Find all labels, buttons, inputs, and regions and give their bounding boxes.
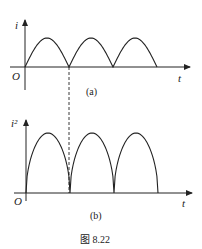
panel-a: i O t (a) xyxy=(10,19,190,98)
panel-b-y-label: i² xyxy=(11,117,18,129)
panel-b: i² O t (b) xyxy=(11,117,192,222)
panel-a-origin-label: O xyxy=(12,70,20,82)
panel-b-caption: (b) xyxy=(90,210,102,222)
panel-a-x-label: t xyxy=(178,72,182,84)
figure-caption: 图 8.22 xyxy=(80,234,110,245)
panel-a-y-label: i xyxy=(15,19,18,31)
panel-b-origin-label: O xyxy=(14,195,22,207)
panel-b-squared-curve xyxy=(26,133,158,193)
panel-b-x-label: t xyxy=(182,197,186,209)
panel-a-rectified-sine-curve xyxy=(25,38,157,67)
panel-a-caption: (a) xyxy=(86,86,97,98)
figure-canvas: i O t (a) i² O t (b) 图 8.22 xyxy=(0,0,202,249)
